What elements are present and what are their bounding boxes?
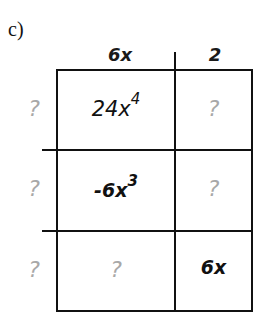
cell-exponent: 3 xyxy=(127,172,137,190)
grid-right-line xyxy=(251,69,253,312)
cell-r1c2: ? xyxy=(176,96,251,121)
cell-exponent: 4 xyxy=(131,90,141,108)
column-header-1: 6x xyxy=(80,44,160,65)
cell-r3c2: 6x xyxy=(176,256,251,278)
row-header-1: ? xyxy=(22,96,46,121)
cell-r2c2: ? xyxy=(176,176,251,201)
grid-top-line xyxy=(57,69,253,71)
cell-r3c1: ? xyxy=(58,257,174,282)
cell-r2c1: -6x3 xyxy=(58,176,174,201)
grid-row-line-1 xyxy=(42,149,253,151)
grid-bottom-line xyxy=(57,310,253,312)
grid-row-line-2 xyxy=(42,230,253,232)
cell-base: 24x xyxy=(92,97,131,121)
cell-base: -6x xyxy=(94,179,127,201)
problem-label: c) xyxy=(8,18,24,41)
row-header-2: ? xyxy=(22,176,46,201)
row-header-3: ? xyxy=(22,257,46,282)
column-header-2: 2 xyxy=(185,44,245,65)
cell-r1c1: 24x4 xyxy=(58,94,174,121)
